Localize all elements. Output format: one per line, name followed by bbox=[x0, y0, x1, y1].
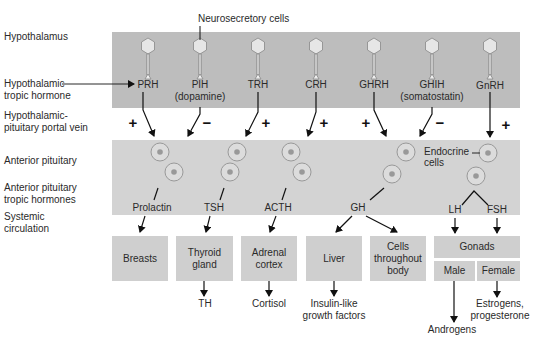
pituitary-hormone-acth: ACTH bbox=[264, 202, 291, 214]
neurosecretory-cells-label: Neurosecretory cells bbox=[198, 13, 289, 25]
target-label-cells-line2: throughout bbox=[374, 253, 422, 265]
effect-sign-ghih: − bbox=[436, 115, 445, 130]
row-label-systemic-line2: circulation bbox=[4, 223, 49, 235]
product-cortisol: Cortisol bbox=[252, 298, 286, 310]
pituitary-hormone-fsh: FSH bbox=[487, 204, 507, 216]
diagram-canvas bbox=[0, 0, 539, 349]
row-label-portal-vein-line1: Hypothalamic- bbox=[4, 110, 68, 122]
target-label-liver: Liver bbox=[323, 253, 345, 265]
target-box-breasts: Breasts bbox=[112, 236, 168, 281]
pituitary-hormone-prolactin: Prolactin bbox=[133, 202, 172, 214]
target-label-adrenal-line2: cortex bbox=[255, 259, 282, 271]
effect-sign-pih: − bbox=[203, 115, 212, 130]
row-label-portal-vein-line2: pituitary portal vein bbox=[4, 122, 88, 134]
row-label-systemic-line1: Systemic bbox=[4, 211, 45, 223]
product-estrogens-line1: Estrogens, bbox=[476, 298, 524, 310]
target-box-adrenal-cortex: Adrenal cortex bbox=[241, 236, 297, 281]
row-label-tropic-hormone-line2: tropic hormone bbox=[4, 90, 71, 102]
target-box-gonads: Gonads bbox=[434, 236, 520, 258]
hormone-label-gnrh: GnRH bbox=[476, 80, 504, 92]
target-label-gonads: Gonads bbox=[459, 241, 494, 253]
product-th: TH bbox=[198, 298, 211, 310]
target-label-cells-line3: body bbox=[387, 265, 409, 277]
hormone-sublabel-pih: (dopamine) bbox=[175, 91, 226, 103]
systemic-arrows bbox=[140, 216, 497, 233]
hormone-sublabel-ghih: (somatostatin) bbox=[400, 91, 463, 103]
target-label-adrenal-line1: Adrenal bbox=[252, 247, 286, 259]
hormone-label-crh: CRH bbox=[305, 79, 327, 91]
product-estrogens-line2: progesterone bbox=[471, 310, 530, 322]
effect-sign-ghrh: + bbox=[362, 115, 371, 130]
target-label-male: Male bbox=[444, 265, 466, 277]
effect-sign-gnrh: + bbox=[502, 117, 511, 132]
hormone-label-prh: PRH bbox=[137, 79, 158, 91]
target-label-breasts: Breasts bbox=[123, 253, 157, 265]
hormone-label-ghrh: GHRH bbox=[359, 79, 388, 91]
endocrine-cells-label-line2: cells bbox=[424, 157, 444, 169]
pituitary-hormone-gh: GH bbox=[351, 202, 366, 214]
target-box-thyroid: Thyroid gland bbox=[176, 236, 233, 281]
pituitary-hormone-lh: LH bbox=[449, 204, 462, 216]
target-label-cells-line1: Cells bbox=[387, 241, 409, 253]
target-box-liver: Liver bbox=[306, 236, 362, 281]
row-label-ap-tropic-line2: tropic hormones bbox=[4, 194, 76, 206]
target-label-thyroid-line1: Thyroid bbox=[188, 247, 221, 259]
row-label-ap-tropic-line1: Anterior pituitary bbox=[4, 182, 77, 194]
row-label-hypothalamus: Hypothalamus bbox=[4, 31, 68, 43]
effect-sign-trh: + bbox=[262, 115, 271, 130]
target-box-cells-throughout-body: Cells throughout body bbox=[370, 236, 426, 281]
product-igf-line2: growth factors bbox=[303, 310, 366, 322]
pituitary-hormone-tsh: TSH bbox=[204, 202, 224, 214]
hormone-label-trh: TRH bbox=[248, 79, 269, 91]
hormone-label-ghih: GHIH bbox=[420, 79, 445, 91]
row-label-anterior-pituitary: Anterior pituitary bbox=[4, 155, 77, 167]
row-label-tropic-hormone-line1: Hypothalamic bbox=[4, 78, 65, 90]
product-igf-line1: Insulin-like bbox=[310, 298, 357, 310]
target-box-male: Male bbox=[434, 261, 475, 281]
effect-sign-prh: + bbox=[129, 115, 138, 130]
hormone-label-pih: PIH bbox=[192, 79, 209, 91]
product-androgens: Androgens bbox=[428, 324, 476, 336]
target-label-thyroid-line2: gland bbox=[192, 259, 216, 271]
target-box-female: Female bbox=[477, 261, 520, 281]
target-label-female: Female bbox=[482, 265, 515, 277]
effect-sign-crh: + bbox=[320, 115, 329, 130]
